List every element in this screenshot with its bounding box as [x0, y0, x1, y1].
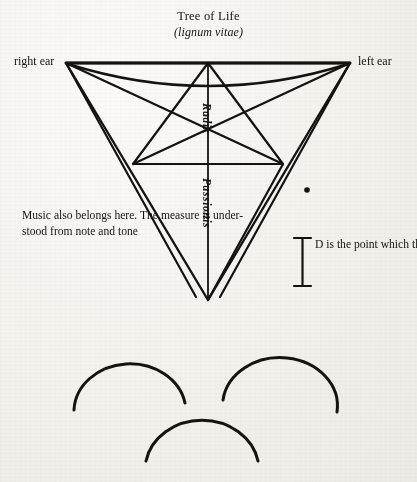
- diagonal-right-ear-to-left-mid: [133, 63, 350, 164]
- arc-center: [146, 420, 258, 461]
- label-left-ear: left ear: [358, 54, 392, 68]
- annotation-d-note: D is the point which the measurer or mea…: [315, 237, 411, 253]
- page-canvas: Tree of Life (lignum vitae) right ear le…: [0, 0, 417, 482]
- annotation-music-note: Music also belongs here. The measure is …: [22, 208, 147, 241]
- diagram-title: Tree of Life: [0, 9, 417, 24]
- inner-triangle-top-left: [133, 63, 208, 164]
- measure-ibeam: [294, 238, 311, 286]
- label-radix: Radix: [201, 103, 213, 134]
- point-d-dot: [304, 187, 310, 193]
- ray-left-ear-inner: [66, 63, 196, 297]
- diagonal-left-ear-to-right-mid: [66, 63, 283, 164]
- label-right-ear: right ear: [14, 54, 54, 68]
- arc-right: [223, 358, 337, 412]
- diagram-subtitle: (lignum vitae): [0, 25, 417, 39]
- arc-left: [74, 364, 185, 410]
- ray-right-ear-inner: [220, 63, 350, 297]
- inner-triangle-top-right: [208, 63, 283, 164]
